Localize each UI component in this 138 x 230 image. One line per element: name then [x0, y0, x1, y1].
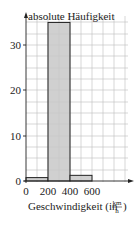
x-unit-denominator: h — [115, 207, 119, 215]
histogram-chart: absolute Häufigkeit 30 20 10 0 0 200 400… — [0, 0, 138, 230]
x-axis-label: Geschwindigkeit (in — [28, 200, 118, 213]
x-tick-200: 200 — [40, 185, 57, 197]
x-label-close-paren: ) — [123, 200, 127, 213]
x-unit-numerator: km — [113, 199, 123, 207]
axes — [23, 12, 134, 183]
grid — [26, 16, 128, 182]
y-axis-label: absolute Häufigkeit — [28, 10, 114, 22]
x-axis-arrow-icon — [128, 179, 134, 183]
x-tick-0: 0 — [23, 185, 29, 197]
bar-200-400 — [48, 22, 70, 181]
bar-400-600 — [70, 175, 92, 181]
x-tick-600: 600 — [84, 185, 101, 197]
y-tick-20: 20 — [10, 84, 22, 96]
x-tick-400: 400 — [62, 185, 79, 197]
y-tick-0: 0 — [16, 175, 22, 187]
y-tick-30: 30 — [10, 39, 22, 51]
y-tick-10: 10 — [10, 130, 22, 142]
bar-0-200 — [26, 178, 48, 181]
